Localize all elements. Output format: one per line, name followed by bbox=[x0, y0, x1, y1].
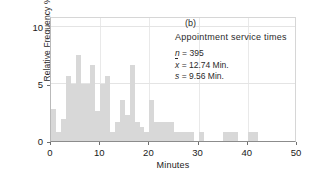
y-tick-mark bbox=[47, 85, 50, 86]
x-tick-label: 50 bbox=[284, 147, 308, 158]
x-tick-label: 40 bbox=[235, 147, 259, 158]
statistics-annotation: n = 395 x = 12.74 Min. s = 9.56 Min. bbox=[175, 48, 229, 83]
panel-label: (b) bbox=[185, 18, 196, 28]
y-tick-label: 0 bbox=[21, 136, 43, 147]
histogram-bar bbox=[199, 132, 204, 141]
x-tick-label: 0 bbox=[38, 147, 62, 158]
y-tick-label: 5 bbox=[21, 79, 43, 90]
mean-symbol: x bbox=[175, 60, 179, 72]
stat-sample-size: n = 395 bbox=[175, 48, 229, 60]
sd-symbol: s bbox=[175, 71, 179, 81]
chart-title: Appointment service times bbox=[175, 32, 287, 42]
x-tick-mark bbox=[198, 142, 199, 145]
equals-sign: = bbox=[182, 60, 187, 70]
x-tick-mark bbox=[99, 142, 100, 145]
x-tick-label: 20 bbox=[136, 147, 160, 158]
sd-value: 9.56 Min. bbox=[189, 71, 224, 81]
histogram-bar bbox=[233, 132, 238, 141]
stat-std-dev: s = 9.56 Min. bbox=[175, 71, 229, 83]
x-axis-label: Minutes bbox=[50, 160, 296, 170]
equals-sign: = bbox=[182, 48, 187, 58]
x-tick-mark bbox=[50, 142, 51, 145]
x-tick-label: 30 bbox=[186, 147, 210, 158]
equals-sign: = bbox=[182, 71, 187, 81]
stat-mean: x = 12.74 Min. bbox=[175, 60, 229, 72]
x-tick-mark bbox=[296, 142, 297, 145]
y-tick-mark bbox=[47, 28, 50, 29]
x-tick-mark bbox=[247, 142, 248, 145]
histogram-figure: Relative Frequency % 0510 01020304050 Mi… bbox=[0, 0, 321, 178]
n-value: 395 bbox=[189, 48, 203, 58]
histogram-bar bbox=[253, 132, 258, 141]
y-tick-label: 10 bbox=[21, 22, 43, 33]
x-tick-label: 10 bbox=[87, 147, 111, 158]
gridline-horizontal bbox=[51, 26, 295, 27]
x-tick-mark bbox=[148, 142, 149, 145]
n-symbol: n bbox=[175, 48, 180, 58]
mean-value: 12.74 Min. bbox=[189, 60, 229, 70]
histogram-bar bbox=[189, 132, 194, 141]
